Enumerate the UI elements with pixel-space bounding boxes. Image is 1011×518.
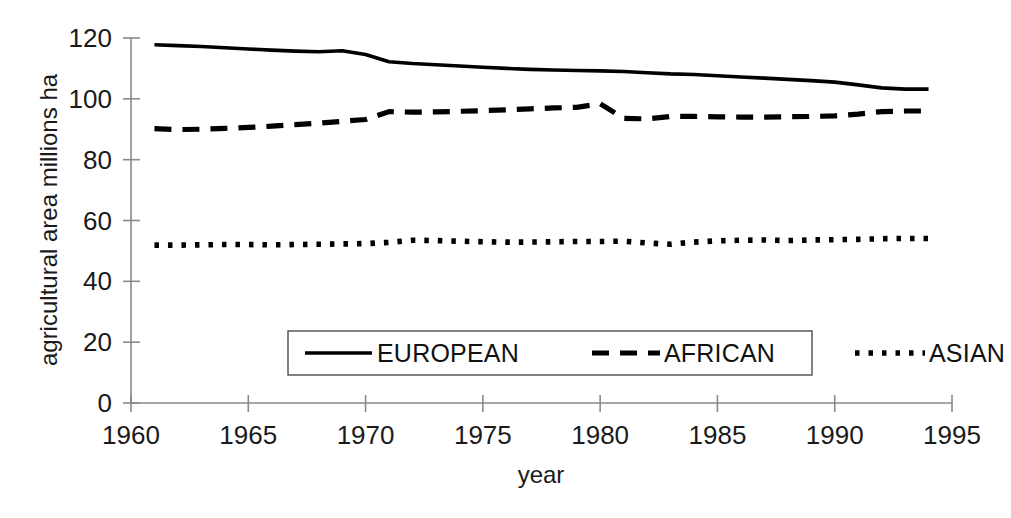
x-tick-label: 1970 [337,420,395,450]
x-axis-tick-labels: 19601965197019751980198519901995 [102,420,981,450]
series-line-african [154,104,928,130]
x-axis-title: year [518,461,565,488]
y-axis-tick-labels: 020406080100120 [69,23,112,418]
chart-canvas: 020406080100120 196019651970197519801985… [0,0,1011,518]
x-tick-label: 1995 [923,420,981,450]
y-tick-label: 120 [69,23,112,53]
y-tick-label: 0 [98,388,112,418]
data-series-layer [154,45,928,245]
series-line-asian [154,238,928,245]
x-tick-label: 1960 [102,420,160,450]
legend-label-african: AFRICAN [664,339,775,367]
x-tick-label: 1965 [219,420,277,450]
x-tick-label: 1990 [806,420,864,450]
legend-label-asian: ASIAN [929,339,1005,367]
y-tick-label: 40 [83,266,112,296]
y-tick-label: 80 [83,145,112,175]
x-tick-label: 1975 [454,420,512,450]
y-tick-label: 20 [83,327,112,357]
x-tick-label: 1980 [571,420,629,450]
y-tick-label: 100 [69,84,112,114]
series-line-european [154,45,928,89]
x-tick-label: 1985 [689,420,747,450]
chart-figure: 020406080100120 196019651970197519801985… [0,0,1011,518]
y-axis-title: agricultural area millions ha [35,73,62,366]
y-tick-label: 60 [83,206,112,236]
chart-legend: EUROPEANAFRICANASIAN [288,331,1005,375]
legend-label-european: EUROPEAN [377,339,519,367]
